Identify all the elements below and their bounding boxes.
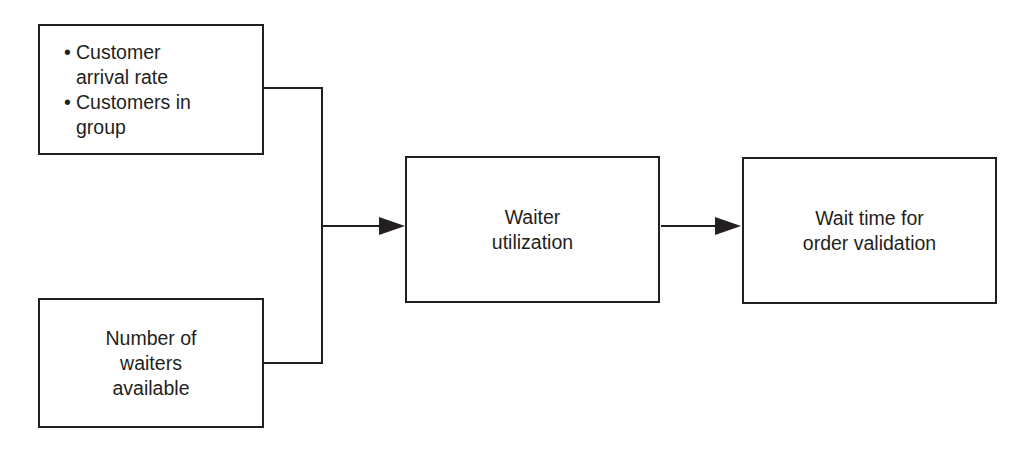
item-line: group xyxy=(76,115,191,140)
bullet-icon: • xyxy=(64,90,76,140)
wait-time-box: Wait time for order validation xyxy=(742,157,997,304)
arrowhead-icon xyxy=(379,217,405,235)
box-line: Waiter xyxy=(505,205,561,230)
box-line: Number of xyxy=(105,326,196,351)
item-line: arrival rate xyxy=(76,65,168,90)
item-line: Customers in xyxy=(76,90,191,115)
box-line: Wait time for xyxy=(815,206,924,231)
box-line: utilization xyxy=(492,230,573,255)
waiters-available-box: Number of waiters available xyxy=(38,298,264,428)
box-line: waiters xyxy=(120,351,182,376)
item-line: Customer xyxy=(76,40,168,65)
bullet-item-arrival-rate: • Customer arrival rate xyxy=(64,40,168,90)
customer-inputs-box: • Customer arrival rate • Customers in g… xyxy=(38,24,264,155)
merge-connector xyxy=(263,88,322,363)
box-line: order validation xyxy=(803,231,936,256)
waiter-utilization-box: Waiter utilization xyxy=(405,156,660,303)
bullet-icon: • xyxy=(64,40,76,90)
box-line: available xyxy=(113,376,190,401)
arrowhead-icon xyxy=(715,217,741,235)
bullet-item-customers-in-group: • Customers in group xyxy=(64,90,191,140)
